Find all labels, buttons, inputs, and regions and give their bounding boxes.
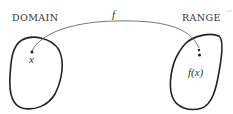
range-title: RANGE xyxy=(182,12,221,23)
range-element-label: f(x) xyxy=(188,66,204,79)
function-mapping-diagram: DOMAIN RANGE x f(x) f xyxy=(0,0,233,114)
range-point xyxy=(198,54,201,57)
function-label: f xyxy=(112,8,117,20)
range-point-arrowhead xyxy=(198,49,200,51)
domain-element-label: x xyxy=(28,53,34,65)
domain-set-shape xyxy=(10,37,62,109)
domain-title: DOMAIN xyxy=(12,12,58,23)
